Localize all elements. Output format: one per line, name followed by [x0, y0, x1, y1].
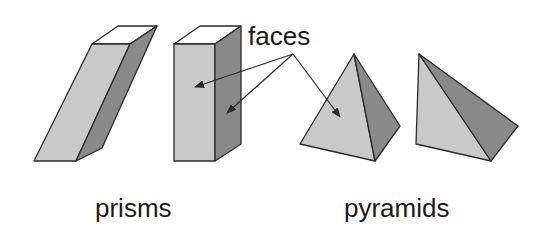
prisms-label: prisms: [95, 193, 172, 223]
pyramids-label: pyramids: [344, 193, 449, 223]
oblique-pyramid: [416, 54, 518, 161]
geometric-solids-diagram: faces prisms pyramids: [0, 0, 553, 237]
oblique-prism: [34, 26, 157, 161]
faces-label: faces: [248, 21, 310, 51]
right-prism: [174, 26, 241, 161]
arrow-to-pyramid-face: [293, 54, 340, 117]
prism-front-face: [174, 44, 215, 161]
prism-side-face: [215, 26, 241, 161]
right-pyramid: [300, 54, 400, 161]
